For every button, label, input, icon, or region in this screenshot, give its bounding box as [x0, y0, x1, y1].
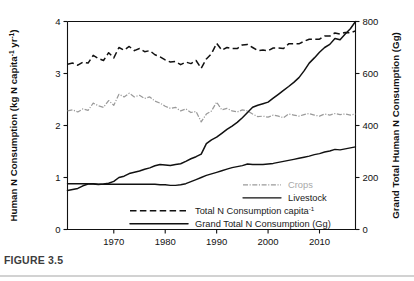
y-axis-tick-label: 3: [55, 68, 60, 79]
x-axis-tick-label: 1970: [103, 236, 124, 247]
legend-label-4: Grand Total N Consumption (Gg): [195, 219, 331, 229]
legend-label-2: Livestock: [288, 193, 327, 203]
y-axis-title: Human N Consumption (kg N capita-1 yr-1): [8, 29, 19, 221]
x-axis-tick-label: 1980: [155, 236, 176, 247]
caption-divider: [0, 275, 414, 277]
y-axis-tick-label: 0: [55, 224, 60, 235]
figure-container: 01234020040060080019701980199020002010Hu…: [0, 0, 414, 281]
x-axis-tick-label: 1990: [206, 236, 227, 247]
y-axis-tick-label: 4: [55, 16, 60, 27]
chart-canvas: 01234020040060080019701980199020002010Hu…: [0, 0, 414, 281]
y-axis-tick-label: 2: [55, 120, 60, 131]
legend-label-1: Crops: [288, 180, 313, 190]
y2-axis-title: Grand Total Human N Consumption (Gg): [390, 32, 401, 219]
series-line-total-per-capita: [68, 31, 356, 68]
series-line-grand-total: [68, 22, 356, 191]
y2-axis-tick-label: 800: [363, 16, 379, 27]
figure-caption-label: FIGURE 3.5: [4, 254, 63, 266]
series-line-crops: [68, 93, 356, 122]
x-axis-tick-label: 2010: [309, 236, 330, 247]
figure-caption-bar: FIGURE 3.5: [0, 251, 414, 281]
y2-axis-tick-label: 400: [363, 120, 379, 131]
y2-axis-tick-label: 600: [363, 68, 379, 79]
y2-axis-tick-label: 200: [363, 172, 379, 183]
x-axis-tick-label: 2000: [258, 236, 279, 247]
y-axis-tick-label: 1: [55, 172, 60, 183]
legend-label-3: Total N Consumption capita-1: [195, 205, 315, 216]
y2-axis-tick-label: 0: [363, 224, 368, 235]
